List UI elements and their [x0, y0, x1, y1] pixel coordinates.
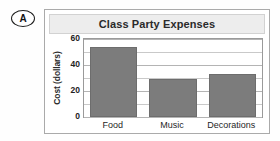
bar: [209, 74, 256, 117]
chart-title-band: Class Party Expenses: [49, 14, 265, 34]
y-axis-title-text: Cost (dollars): [52, 51, 62, 104]
y-tick-label: 40: [71, 60, 80, 69]
y-tick-label: 20: [71, 86, 80, 95]
y-tick-label: 60: [71, 34, 80, 43]
x-tick-label: Music: [160, 120, 184, 131]
chart-figure: Class Party Expenses Cost (dollars) 0204…: [44, 9, 270, 134]
x-tick-label: Food: [102, 120, 123, 131]
gridline: [84, 117, 262, 118]
bar: [149, 79, 196, 117]
bar: [90, 47, 137, 117]
bar-series: [84, 39, 262, 117]
worksheet-figure-item: A Class Party Expenses Cost (dollars) 02…: [0, 0, 280, 141]
plot-area: [83, 38, 263, 118]
item-label-letter: A: [12, 11, 34, 26]
chart-title: Class Party Expenses: [99, 18, 215, 30]
x-tick-label: Decorations: [207, 120, 255, 131]
y-axis-tick-labels: 0204060: [63, 38, 81, 118]
y-tick-label: 0: [75, 112, 80, 121]
y-axis-title: Cost (dollars): [50, 38, 63, 118]
x-axis-tick-labels: FoodMusicDecorations: [83, 120, 263, 134]
item-label-badge: A: [11, 10, 35, 27]
